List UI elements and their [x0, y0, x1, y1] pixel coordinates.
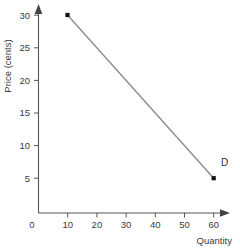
series-label-d: D: [221, 157, 228, 168]
data-point-marker-start: [65, 13, 69, 17]
data-point-marker-end: [212, 176, 216, 180]
origin-label: 0: [29, 219, 34, 230]
x-tick-label-40: 40: [150, 219, 161, 230]
chart-figure: 30 25 20 15 10 5 0 10 20 30 40 50 60 Pri…: [0, 0, 240, 251]
y-tick-label-30: 30: [19, 10, 30, 21]
y-tick-label-15: 15: [19, 107, 30, 118]
y-tick-label-25: 25: [19, 42, 30, 53]
x-axis-title: Quantity: [197, 235, 233, 246]
y-tick-label-10: 10: [19, 140, 30, 151]
x-tick-label-50: 50: [179, 219, 190, 230]
y-tick-label-5: 5: [25, 173, 30, 184]
y-axis-title: Price (cents): [2, 39, 13, 92]
demand-curve-chart: 30 25 20 15 10 5 0 10 20 30 40 50 60 Pri…: [0, 0, 240, 251]
y-tick-label-20: 20: [19, 75, 30, 86]
x-tick-label-10: 10: [62, 219, 73, 230]
x-tick-label-20: 20: [92, 219, 103, 230]
x-tick-label-60: 60: [208, 219, 219, 230]
x-tick-label-30: 30: [121, 219, 132, 230]
